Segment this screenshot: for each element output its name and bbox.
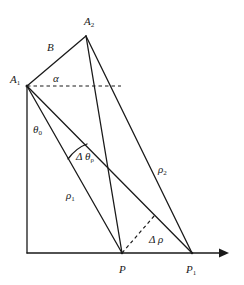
- ray-geometry-diagram: [0, 0, 244, 285]
- label-theta0: θ0: [33, 124, 42, 137]
- label-rho1: ρ1: [66, 190, 75, 203]
- label-a1: A1: [10, 74, 20, 87]
- label-b: B: [47, 42, 54, 53]
- x-axis-arrow-icon: [219, 249, 229, 258]
- segment-a2-p1-rho2: [86, 36, 192, 253]
- point-p1: [191, 252, 194, 255]
- label-delta-rho: Δ ρ: [149, 234, 163, 245]
- label-delta-theta: Δ θρ: [76, 151, 94, 164]
- segment-a1-p1: [27, 86, 192, 253]
- point-a1: [26, 85, 29, 88]
- label-p: P: [119, 264, 126, 275]
- label-rho2: ρ2: [158, 164, 167, 177]
- label-alpha: α: [53, 73, 59, 84]
- point-p: [121, 252, 124, 255]
- label-p1: P1: [186, 264, 196, 277]
- label-a2: A2: [84, 16, 94, 29]
